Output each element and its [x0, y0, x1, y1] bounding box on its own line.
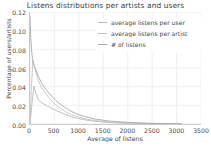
- x-tick-label: 2500: [144, 127, 160, 134]
- legend-color-swatch: [98, 33, 107, 34]
- x-tick-label: 3000: [169, 127, 185, 134]
- chart-figure: Listens distributions per artists and us…: [0, 0, 211, 154]
- x-tick-label: 1000: [70, 127, 86, 134]
- legend-item: # of listens: [98, 41, 206, 48]
- x-tick-label: 1500: [95, 127, 111, 134]
- x-tick-label: 0: [27, 127, 31, 134]
- x-tick-label: 500: [48, 127, 60, 134]
- legend-label: # of listens: [111, 41, 146, 48]
- legend-item: average listens per artist: [98, 30, 206, 37]
- y-axis-label: Percentage of users/artists: [5, 0, 12, 119]
- x-axis-label: Average of listens: [29, 135, 201, 142]
- y-tick-label: 0.00: [0, 122, 26, 129]
- legend-label: average listens per artist: [111, 30, 188, 37]
- x-tick-label: 3500: [193, 127, 209, 134]
- legend-color-swatch: [98, 44, 107, 45]
- x-tick-label: 2000: [119, 127, 135, 134]
- legend-color-swatch: [98, 22, 107, 23]
- legend-label: average listens per user: [111, 19, 185, 26]
- legend-item: average listens per user: [98, 19, 206, 26]
- chart-legend: average listens per useraverage listens …: [96, 18, 208, 52]
